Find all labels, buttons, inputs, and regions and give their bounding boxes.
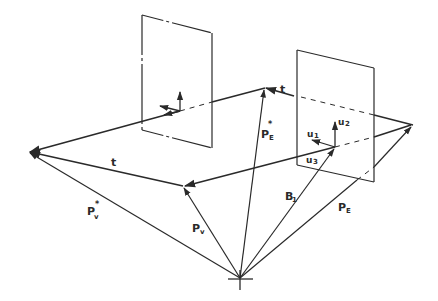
svg-text:1: 1 [292, 196, 297, 204]
label-t-left: t [111, 156, 116, 169]
label-pe: P E [338, 201, 351, 215]
diagram-canvas: t t P * v P v P * E P E B 1 [0, 0, 438, 301]
svg-text:u: u [307, 129, 313, 139]
svg-text:E: E [346, 207, 351, 215]
svg-text:P: P [261, 128, 269, 141]
svg-text:u: u [306, 155, 312, 165]
label-u3: u 3 [306, 155, 318, 166]
svg-text:v: v [200, 228, 205, 236]
vector-lines [30, 88, 413, 186]
vector-diagram: t t P * v P v P * E P E B 1 [0, 0, 438, 301]
label-b: B 1 [285, 190, 297, 204]
label-u1: u 1 [307, 129, 319, 140]
label-pe-star: P * E [261, 120, 274, 142]
svg-text:P: P [338, 201, 346, 214]
svg-text:2: 2 [345, 120, 350, 128]
svg-text:E: E [269, 134, 274, 142]
position-vectors [30, 90, 411, 278]
label-u2: u 2 [338, 117, 350, 128]
hidden-lines [180, 97, 374, 180]
left-image-plane [142, 15, 212, 148]
label-pv: P v [192, 222, 205, 236]
svg-text:P: P [192, 222, 200, 235]
label-pv-star: P * v [87, 200, 100, 221]
label-t-top: t [280, 83, 285, 96]
svg-text:u: u [338, 117, 344, 127]
svg-text:3: 3 [313, 158, 318, 166]
labels: t t P * v P v P * E P E B 1 [87, 83, 351, 236]
svg-text:*: * [95, 200, 100, 209]
svg-text:*: * [268, 120, 273, 129]
svg-text:v: v [94, 213, 99, 221]
left-plane-frame [160, 92, 180, 115]
svg-text:1: 1 [314, 132, 319, 140]
